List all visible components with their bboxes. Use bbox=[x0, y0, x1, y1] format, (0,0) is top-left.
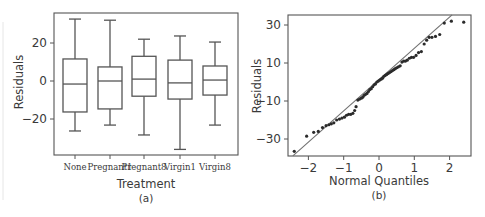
data-point bbox=[462, 21, 465, 24]
data-point bbox=[414, 54, 417, 57]
data-point bbox=[423, 42, 426, 45]
box-virgin1 bbox=[168, 36, 192, 149]
data-point bbox=[324, 124, 327, 127]
box-none bbox=[63, 19, 87, 131]
box-virgin8 bbox=[203, 42, 227, 125]
qq-plot-frame bbox=[288, 15, 471, 156]
x-tick-label: Virgin1 bbox=[163, 162, 196, 172]
figure: 200−20 NonePregnant1Pregnant8Virgin1Virg… bbox=[0, 0, 485, 217]
boxplot-panel-label: (a) bbox=[139, 192, 154, 204]
data-point bbox=[434, 35, 437, 38]
boxplot-x-axis-title: Treatment bbox=[116, 177, 176, 191]
box-pregnant1 bbox=[98, 20, 122, 125]
data-point bbox=[417, 51, 420, 54]
x-tick-label: −2 bbox=[300, 161, 318, 175]
data-point bbox=[321, 126, 324, 129]
y-tick-label: −30 bbox=[256, 132, 281, 146]
x-tick-label: None bbox=[63, 162, 86, 172]
data-point bbox=[293, 150, 296, 153]
data-point bbox=[428, 36, 431, 39]
y-tick-label: 30 bbox=[266, 18, 281, 32]
data-point bbox=[305, 135, 308, 138]
box-pregnant8 bbox=[132, 39, 156, 135]
x-tick-label: 2 bbox=[446, 161, 454, 175]
qq-y-axis-title: Residuals bbox=[250, 59, 264, 114]
data-point bbox=[443, 22, 446, 25]
data-point bbox=[317, 130, 320, 133]
y-tick-label: 20 bbox=[32, 36, 47, 50]
boxplot-y-axis-title: Residuals bbox=[12, 55, 26, 110]
boxplot-y-ticks: 200−20 bbox=[22, 36, 54, 126]
qq-x-axis-title: Normal Quantiles bbox=[329, 174, 429, 188]
data-point bbox=[354, 105, 357, 108]
qq-points bbox=[293, 20, 466, 153]
boxplot-panel: 200−20 NonePregnant1Pregnant8Virgin1Virg… bbox=[12, 13, 238, 204]
data-point bbox=[450, 20, 453, 23]
data-point bbox=[399, 64, 402, 67]
x-tick-label: Virgin8 bbox=[198, 162, 231, 172]
y-tick-label: 10 bbox=[266, 56, 281, 70]
data-point bbox=[425, 39, 428, 42]
x-tick-label: 0 bbox=[375, 161, 383, 175]
data-point bbox=[351, 112, 354, 115]
x-tick-label: 1 bbox=[410, 161, 418, 175]
data-point bbox=[353, 109, 356, 112]
qq-panel-label: (b) bbox=[372, 189, 387, 201]
boxplot-boxes bbox=[63, 19, 227, 149]
y-tick-label: 0 bbox=[39, 74, 47, 88]
qq-x-ticks: −2−1012 bbox=[300, 156, 454, 175]
qq-plot-panel: 3010−10−30 −2−1012 Residuals Normal Quan… bbox=[250, 15, 471, 201]
y-tick-label: −20 bbox=[22, 112, 47, 126]
data-point bbox=[438, 33, 441, 36]
x-tick-label: −1 bbox=[335, 161, 353, 175]
data-point bbox=[420, 50, 423, 53]
boxplot-x-ticks: NonePregnant1Pregnant8Virgin1Virgin8 bbox=[63, 155, 230, 172]
data-point bbox=[430, 36, 433, 39]
data-point bbox=[335, 118, 338, 121]
data-point bbox=[312, 131, 315, 134]
x-tick-label: Pregnant8 bbox=[121, 162, 166, 172]
data-point bbox=[332, 121, 335, 124]
